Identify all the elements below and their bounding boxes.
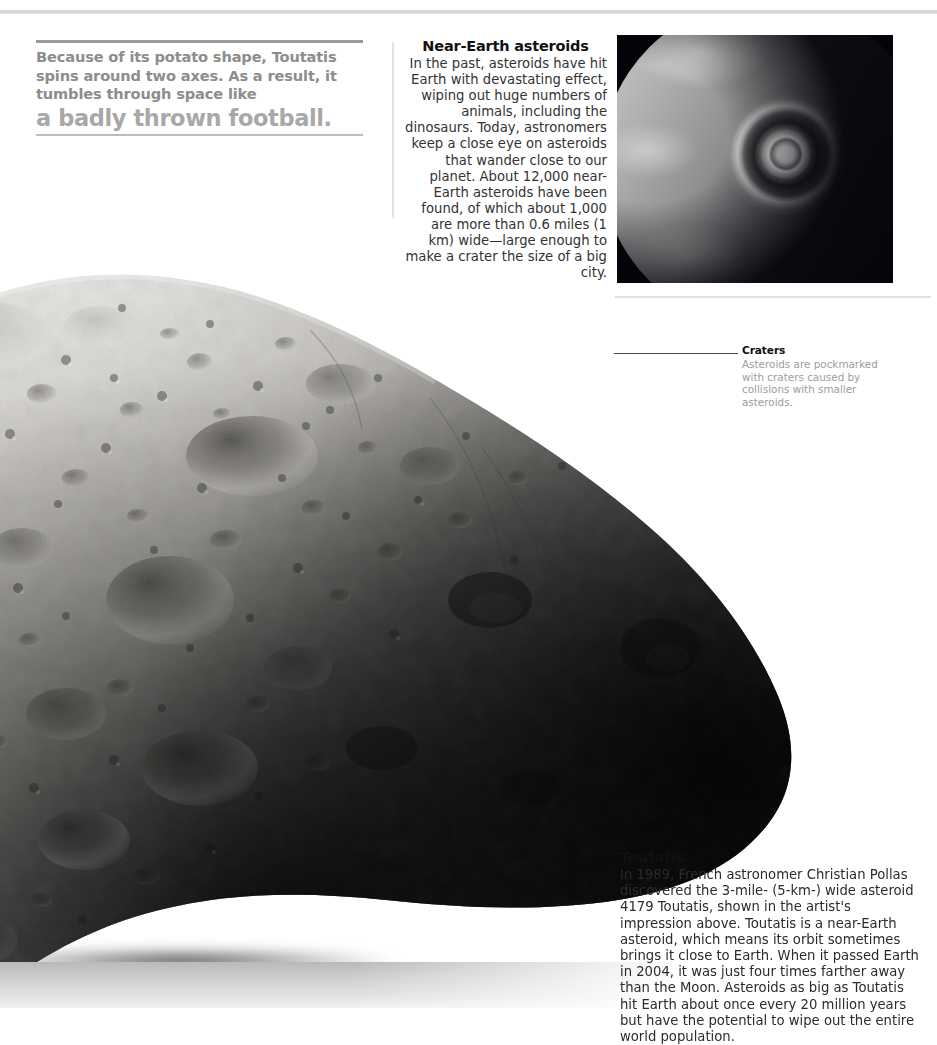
headline-rule-top [36,40,363,43]
highlighted-crater [519,304,677,438]
ground-plane [0,962,680,1008]
page-top-rule [0,10,937,14]
headline-lede: Because of its potato shape, Toutatis sp… [36,48,363,104]
headline-rule-bottom [36,134,363,136]
toutatis-body: In 1989, French astronomer Christian Pol… [620,867,920,1045]
toutatis-caption: Toutatis In 1989, French astronomer Chri… [620,848,920,1045]
toutatis-title: Toutatis [620,848,920,866]
headline-kicker: a badly thrown football. [36,105,363,131]
near-earth-title: Near-Earth asteroids [404,37,607,55]
headline-block: Because of its potato shape, Toutatis sp… [36,40,363,136]
